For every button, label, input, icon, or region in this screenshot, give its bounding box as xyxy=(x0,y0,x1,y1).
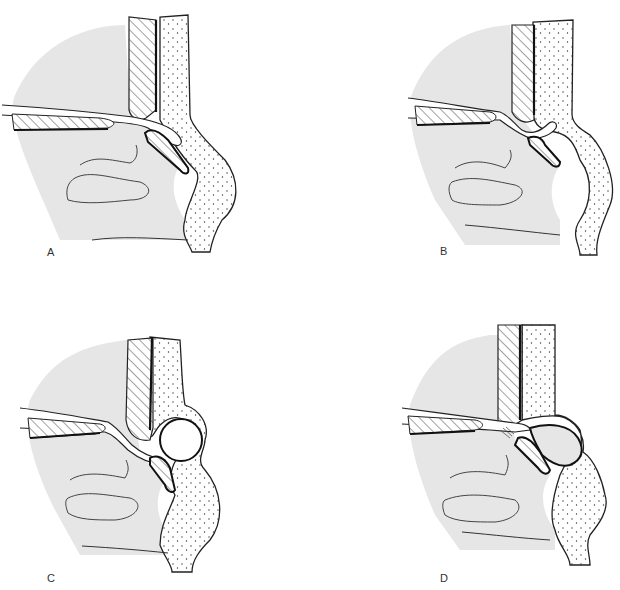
panel-a-illustration xyxy=(0,0,260,270)
panel-b: B xyxy=(390,0,620,270)
panel-label-b: B xyxy=(440,245,447,257)
panel-d: D xyxy=(390,310,620,590)
panel-label-d: D xyxy=(440,572,448,584)
panel-c: C xyxy=(0,310,260,590)
panel-c-illustration xyxy=(0,310,260,590)
panel-b-illustration xyxy=(390,0,620,270)
panel-label-c: C xyxy=(47,572,55,584)
panel-label-a: A xyxy=(47,246,54,258)
panel-d-illustration xyxy=(390,310,620,590)
panel-a: A xyxy=(0,0,260,270)
